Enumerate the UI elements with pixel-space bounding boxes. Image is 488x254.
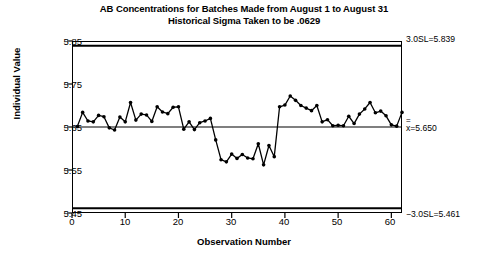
center-value-text: =5.650	[410, 123, 437, 133]
y-tick-label: 5.85	[42, 36, 82, 47]
upper-control-limit-label: 3.0SL=5.839	[406, 34, 455, 44]
chart-title-block: AB Concentrations for Batches Made from …	[0, 3, 488, 27]
plot-area	[72, 41, 402, 213]
y-tick-label: 5.55	[42, 165, 82, 176]
x-tick-label: 10	[105, 216, 145, 227]
y-tick-label: 5.75	[42, 79, 82, 90]
x-tick-label: 0	[52, 216, 92, 227]
x-tick-label: 40	[264, 216, 304, 227]
x-tick-label: 30	[211, 216, 251, 227]
chart-subtitle: Historical Sigma Taken to be .0629	[0, 15, 488, 27]
x-tick-label: 50	[317, 216, 357, 227]
x-tick-label: 20	[158, 216, 198, 227]
center-line-label: =x=5.650	[406, 124, 437, 133]
y-tick-label: 5.65	[42, 122, 82, 133]
x-double-bar-symbol: =x	[406, 124, 410, 133]
y-axis-label: Individual Value	[11, 24, 22, 144]
lower-control-limit-label: −3.0SL=5.461	[406, 209, 460, 219]
x-axis-label: Observation Number	[0, 236, 488, 247]
chart-title: AB Concentrations for Batches Made from …	[0, 3, 488, 15]
x-tick-label: 60	[370, 216, 410, 227]
control-chart: AB Concentrations for Batches Made from …	[0, 0, 488, 254]
double-bar-overline: =	[406, 119, 410, 122]
